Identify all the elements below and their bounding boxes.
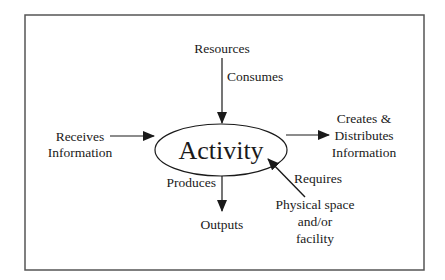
creates-label-3: Information — [332, 145, 397, 160]
receives-label-2: Information — [48, 145, 113, 160]
outputs-label: Outputs — [201, 217, 244, 232]
activity-diagram: Activity Resources Consumes Receives Inf… — [0, 0, 445, 280]
produces-label: Produces — [167, 175, 217, 190]
consumes-label: Consumes — [227, 69, 283, 84]
receives-label: Receives — [56, 129, 105, 144]
physical-label-3: facility — [296, 231, 334, 246]
physical-label: Physical space — [275, 197, 354, 212]
requires-label: Requires — [294, 171, 342, 186]
activity-label: Activity — [178, 136, 263, 165]
creates-label-2: Distributes — [334, 128, 393, 143]
resources-label: Resources — [194, 41, 249, 56]
creates-label: Creates & — [337, 111, 392, 126]
physical-label-2: and/or — [298, 214, 333, 229]
